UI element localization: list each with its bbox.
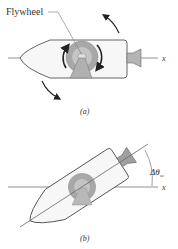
figure-a: Flywheel x (a) (6, 6, 166, 116)
flywheel-label: Flywheel (6, 6, 43, 17)
caption-a: (a) (80, 107, 90, 116)
thruster-icon-a (127, 49, 141, 67)
x-axis-label-b: x (161, 183, 166, 192)
body-rotation-arrow-bottom (42, 81, 58, 98)
x-axis-label-a: x (161, 54, 166, 63)
diagram-canvas: Flywheel x (a) Δθsc x (b) (0, 0, 178, 249)
caption-b: (b) (80, 234, 90, 243)
body-rotation-arrow-top (105, 16, 119, 33)
figure-b: Δθsc x (b) (8, 140, 166, 243)
tilted-axis-line-b (20, 144, 148, 227)
angle-label: Δθsc (149, 167, 165, 178)
